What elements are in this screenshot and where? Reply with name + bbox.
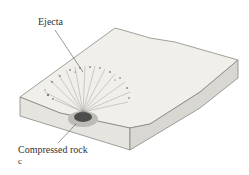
compressed-rock-zone <box>74 112 92 122</box>
panel-letter: c <box>18 156 22 166</box>
ejecta-label: Ejecta <box>38 16 63 27</box>
compressed-rock-label: Compressed rock <box>18 144 88 155</box>
